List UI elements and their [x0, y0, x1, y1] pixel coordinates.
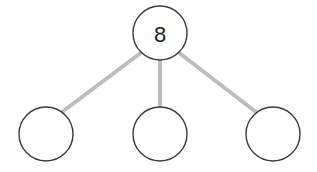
- number-bond-diagram: 8: [0, 0, 317, 172]
- whole-value: 8: [154, 22, 166, 47]
- node-whole: 8: [133, 6, 187, 60]
- edges: [62, 52, 256, 112]
- edge-whole-to-right: [178, 52, 256, 112]
- node-part-right[interactable]: [246, 107, 300, 161]
- node-part-left[interactable]: [19, 107, 73, 161]
- part-right-circle[interactable]: [246, 107, 300, 161]
- node-part-middle[interactable]: [133, 107, 187, 161]
- part-middle-circle[interactable]: [133, 107, 187, 161]
- edge-whole-to-left: [62, 52, 142, 112]
- part-left-circle[interactable]: [19, 107, 73, 161]
